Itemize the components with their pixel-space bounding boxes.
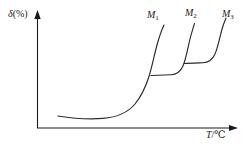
y-axis-label: δ(%) <box>8 9 28 19</box>
branch-subscript-m2: 2 <box>193 12 197 20</box>
curve-branch-m3 <box>184 18 226 64</box>
x-axis-label: T/℃ <box>206 130 226 140</box>
branch-label-m1: M1 <box>147 10 159 20</box>
branch-label-m3: M3 <box>222 9 234 19</box>
chart-figure: δ(%) T/℃ M1 M2 M3 <box>0 0 244 146</box>
y-axis-arrowhead <box>34 10 40 19</box>
branch-subscript-m1: 1 <box>155 14 159 22</box>
curve-branch-m2 <box>151 24 195 76</box>
branch-label-m2: M2 <box>185 8 197 18</box>
curve-branch-m1 <box>58 25 164 119</box>
y-axis-unit: (%) <box>13 8 28 19</box>
branch-subscript-m3: 3 <box>230 13 234 21</box>
x-axis-unit: /℃ <box>212 129 226 140</box>
chart-plot-area <box>0 0 244 146</box>
x-axis-arrowhead <box>229 125 238 131</box>
